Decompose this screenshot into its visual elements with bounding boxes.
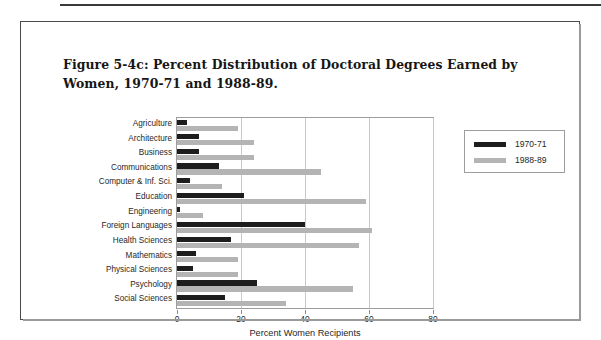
y-axis-label: Social Sciences	[114, 292, 172, 307]
bar-1970-71	[177, 149, 199, 154]
bar-1988-89	[177, 228, 372, 233]
x-tick-label: 40	[300, 314, 309, 324]
figure-container: Figure 5-4c: Percent Distribution of Doc…	[20, 21, 580, 320]
bar-1988-89	[177, 169, 321, 174]
bar-1988-89	[177, 126, 238, 131]
plot-area	[176, 117, 434, 309]
bar-row	[177, 162, 433, 177]
legend-item-1970-71: 1970-71	[474, 138, 547, 150]
y-axis-label: Education	[136, 190, 172, 205]
bar-row	[177, 118, 433, 133]
bar-1988-89	[177, 155, 254, 160]
bar-1988-89	[177, 257, 238, 262]
legend-item-1988-89: 1988-89	[474, 154, 547, 166]
bar-row	[177, 250, 433, 265]
bar-row	[177, 220, 433, 235]
bar-row	[177, 235, 433, 250]
y-axis-label: Business	[139, 146, 172, 161]
bar-row	[177, 279, 433, 294]
x-tick-label: 60	[364, 314, 373, 324]
bar-1988-89	[177, 140, 254, 145]
bar-1988-89	[177, 213, 203, 218]
y-axis-label: Psychology	[130, 278, 172, 293]
y-axis-label: Architecture	[128, 132, 172, 147]
bar-1970-71	[177, 134, 199, 139]
y-axis-label: Mathematics	[126, 249, 172, 264]
bar-1970-71	[177, 251, 196, 256]
bar-1970-71	[177, 237, 231, 242]
bar-row	[177, 176, 433, 191]
bar-1970-71	[177, 120, 187, 125]
y-axis-label: Computer & Inf. Sci.	[99, 175, 172, 190]
legend-label-1988-89: 1988-89	[515, 155, 547, 165]
bar-row	[177, 191, 433, 206]
gridline-80	[433, 118, 434, 308]
y-axis-label: Foreign Languages	[101, 219, 172, 234]
x-tick-label: 0	[175, 314, 180, 324]
bar-row	[177, 264, 433, 279]
figure-caption: Figure 5-4c: Percent Distribution of Doc…	[63, 55, 563, 93]
bar-1988-89	[177, 286, 353, 291]
y-axis-label: Communications	[111, 161, 172, 176]
x-tick-label: 20	[236, 314, 245, 324]
bar-row	[177, 133, 433, 148]
bar-1970-71	[177, 178, 190, 183]
y-axis-label: Engineering	[128, 205, 172, 220]
bar-1970-71	[177, 222, 305, 227]
page-top-rule	[60, 4, 601, 6]
bar-row	[177, 206, 433, 221]
bar-row	[177, 293, 433, 308]
y-axis-label: Health Sciences	[113, 234, 172, 249]
legend-label-1970-71: 1970-71	[515, 139, 547, 149]
bar-1970-71	[177, 193, 244, 198]
x-axis-title: Percent Women Recipients	[176, 328, 434, 338]
y-axis-label: Agriculture	[133, 117, 172, 132]
x-axis-ticks: 020406080	[176, 310, 434, 326]
legend-swatch-1970-71	[474, 142, 506, 147]
bar-1988-89	[177, 184, 222, 189]
bar-rows	[177, 118, 433, 308]
legend-swatch-1988-89	[474, 158, 506, 163]
y-axis-category-labels: AgricultureArchitectureBusinessCommunica…	[57, 117, 174, 309]
bar-row	[177, 147, 433, 162]
bar-1970-71	[177, 280, 257, 285]
bar-1970-71	[177, 266, 193, 271]
y-axis-label: Physical Sciences	[106, 263, 172, 278]
bar-1970-71	[177, 295, 225, 300]
x-tick-label: 80	[428, 314, 437, 324]
bar-1988-89	[177, 272, 238, 277]
chart-legend: 1970-71 1988-89	[464, 130, 565, 173]
bar-1988-89	[177, 199, 366, 204]
bar-1970-71	[177, 207, 180, 212]
bar-1988-89	[177, 243, 359, 248]
bar-1970-71	[177, 163, 219, 168]
bar-1988-89	[177, 301, 286, 306]
